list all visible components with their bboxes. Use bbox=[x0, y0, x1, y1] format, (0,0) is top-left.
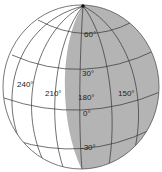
globe-diagram: 60° 30° 0° -30° 240° 210° 180° 150° bbox=[0, 0, 162, 172]
shaded-hemisphere bbox=[65, 0, 162, 170]
globe-svg: 60° 30° 0° -30° 240° 210° 180° 150° bbox=[0, 0, 162, 172]
lat-label-0: 0° bbox=[83, 109, 91, 118]
lat-label-minus30: -30° bbox=[81, 143, 96, 152]
lon-label-180: 180° bbox=[78, 93, 95, 102]
lat-label-30: 30° bbox=[82, 69, 94, 78]
north-pole-marker bbox=[81, 4, 85, 8]
lon-label-240: 240° bbox=[17, 80, 34, 89]
lon-label-210: 210° bbox=[45, 89, 62, 98]
lon-label-150: 150° bbox=[118, 89, 135, 98]
lat-label-60: 60° bbox=[84, 30, 96, 39]
